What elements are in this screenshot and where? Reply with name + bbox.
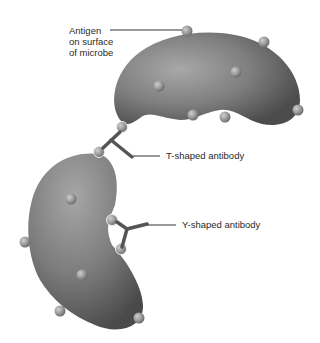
antigen-icon bbox=[259, 37, 270, 48]
antigen-bound-icon bbox=[117, 122, 128, 133]
diagram-illustration bbox=[0, 0, 320, 343]
antigen-icon bbox=[220, 112, 231, 123]
antigen-icon bbox=[55, 306, 66, 317]
antigen-label: Antigen on surface of microbe bbox=[69, 25, 113, 58]
microbe-bottom-body bbox=[28, 153, 143, 329]
y-antibody-icon bbox=[117, 222, 147, 247]
antigen-icon bbox=[231, 67, 242, 78]
antigen-icon bbox=[20, 237, 31, 248]
antigen-icon bbox=[134, 313, 145, 324]
y-antibody-label: Y-shaped antibody bbox=[182, 219, 260, 230]
antigen-label-line-3: of microbe bbox=[69, 47, 113, 58]
microbe-top bbox=[114, 26, 303, 133]
antigen-icon bbox=[66, 194, 77, 205]
t-antibody-label: T-shaped antibody bbox=[166, 150, 244, 161]
antigen-icon bbox=[293, 105, 304, 116]
antigen-icon bbox=[182, 26, 193, 37]
antigen-icon bbox=[154, 81, 165, 92]
antigen-icon bbox=[77, 270, 88, 281]
microbe-top-body bbox=[114, 33, 300, 125]
antibody-diagram: Antigen on surface of microbe T-shaped a… bbox=[0, 0, 320, 343]
antigen-label-line-2: on surface bbox=[69, 36, 113, 47]
t-antibody-icon bbox=[103, 132, 132, 157]
antigen-bound-icon bbox=[107, 215, 118, 226]
antigen-icon bbox=[188, 110, 199, 121]
antigen-label-line-1: Antigen bbox=[69, 25, 113, 36]
